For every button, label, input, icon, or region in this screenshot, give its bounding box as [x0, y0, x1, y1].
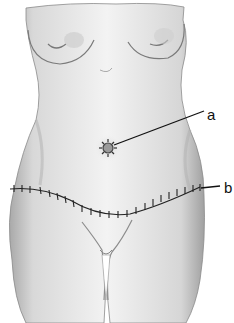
label-b: b: [224, 180, 232, 195]
label-a: a: [207, 107, 215, 122]
torso-illustration: [0, 0, 234, 323]
